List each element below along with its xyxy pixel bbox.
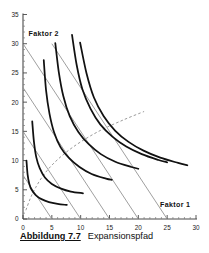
expansion-path-plot: 05101520253005101520253035Faktor 2Faktor… (0, 0, 209, 253)
expansion-path-curve (26, 111, 144, 210)
figure-number: Abbildung 7.7 (20, 231, 81, 241)
y-axis-tick-label: 15 (11, 128, 19, 135)
x-axis-label: Faktor 1 (160, 201, 190, 209)
isoquant-curve (55, 43, 138, 169)
x-axis-tick-label: 15 (106, 224, 114, 231)
isoquant-curve (80, 43, 187, 166)
x-axis-tick-label: 20 (135, 224, 143, 231)
x-axis-tick-label: 5 (50, 224, 54, 231)
figure-caption: Abbildung 7.7 Expansionspfad (0, 231, 209, 251)
x-axis-tick-label: 30 (192, 224, 200, 231)
y-axis-tick-label: 10 (11, 157, 19, 164)
x-axis-tick-label: 25 (164, 224, 172, 231)
y-axis-tick-label: 5 (15, 186, 19, 193)
isocost-line (23, 131, 81, 219)
y-axis-tick-label: 20 (11, 99, 19, 106)
y-axis-tick-label: 35 (11, 11, 19, 18)
x-axis-tick-label: 10 (77, 224, 85, 231)
figure-title: Expansionspfad (88, 231, 153, 241)
expansion-path-figure: 05101520253005101520253035Faktor 2Faktor… (0, 0, 209, 253)
y-axis-label: Faktor 2 (29, 30, 59, 38)
isocost-line (52, 44, 167, 219)
x-axis-tick-label: 0 (21, 224, 25, 231)
y-axis-tick-label: 30 (11, 40, 19, 47)
y-axis-tick-label: 25 (11, 69, 19, 76)
isoquant-curve (72, 35, 167, 162)
y-axis-tick-label: 0 (15, 215, 19, 222)
